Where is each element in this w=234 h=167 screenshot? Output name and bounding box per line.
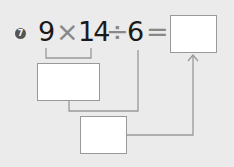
step2-box[interactable] (80, 116, 127, 154)
answer-box[interactable] (170, 15, 217, 53)
step1-box[interactable] (37, 63, 100, 101)
